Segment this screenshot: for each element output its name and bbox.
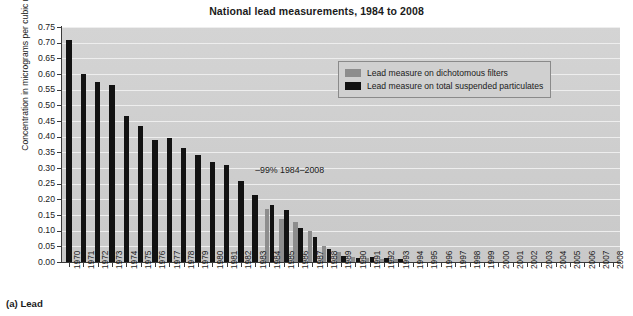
x-axis-tick-label: 1970 — [73, 251, 81, 269]
x-axis-tick-label: 2004 — [559, 251, 567, 269]
x-axis-tick — [312, 263, 313, 267]
x-axis-tick-label: 1990 — [359, 251, 367, 269]
bar-tsp-1977 — [167, 138, 172, 262]
x-axis-tick — [298, 263, 299, 267]
x-axis-tick — [498, 263, 499, 267]
bar-tsp-1978 — [181, 148, 186, 262]
x-axis-tick — [427, 263, 428, 267]
x-axis-tick — [355, 263, 356, 267]
x-axis-tick-label: 1981 — [230, 251, 238, 269]
x-axis-tick-label: 1995 — [430, 251, 438, 269]
x-axis-tick-label: 1991 — [373, 251, 381, 269]
x-axis-tick — [69, 263, 70, 267]
y-axis-tick-label: 0.60 — [3, 70, 55, 79]
x-axis-tick — [613, 263, 614, 267]
y-axis-tick-label: 0.50 — [3, 101, 55, 110]
x-axis-tick-label: 1979 — [201, 251, 209, 269]
x-axis-tick-label: 1977 — [173, 251, 181, 269]
y-axis-line — [61, 26, 62, 263]
gridline — [62, 168, 620, 169]
gridline — [62, 184, 620, 185]
x-axis-tick-label: 1989 — [344, 251, 352, 269]
legend-item[interactable]: Lead measure on dichotomous filters — [345, 66, 543, 79]
x-axis-tick-label: 1985 — [287, 251, 295, 269]
y-axis-tick-label: 0.70 — [3, 38, 55, 47]
legend-swatch-tsp-icon — [345, 82, 361, 90]
x-axis-tick — [169, 263, 170, 267]
legend-item-label: Lead measure on total suspended particul… — [367, 81, 543, 91]
gridline — [62, 231, 620, 232]
x-axis-tick — [269, 263, 270, 267]
y-axis-tick-label: 0.20 — [3, 195, 55, 204]
legend-item[interactable]: Lead measure on total suspended particul… — [345, 79, 543, 92]
x-axis-tick-label: 1999 — [487, 251, 495, 269]
bar-tsp-1975 — [138, 126, 143, 262]
x-axis-tick — [370, 263, 371, 267]
x-axis-tick — [284, 263, 285, 267]
x-axis-tick-label: 1993 — [402, 251, 410, 269]
x-axis-tick-label: 1982 — [244, 251, 252, 269]
x-axis-tick-label: 1996 — [445, 251, 453, 269]
y-axis-tick-label: 0.55 — [3, 85, 55, 94]
x-axis-tick-label: 2008 — [616, 251, 624, 269]
x-axis-tick-label: 1997 — [459, 251, 467, 269]
y-axis-tick-labels: 0.750.700.650.600.550.500.450.400.350.30… — [0, 0, 55, 316]
y-axis-tick-label: 0.25 — [3, 179, 55, 188]
x-axis-tick-label: 1974 — [130, 251, 138, 269]
bar-tsp-1971 — [81, 74, 86, 262]
x-axis-tick — [227, 263, 228, 267]
x-axis-tick — [141, 263, 142, 267]
bar-tsp-1973 — [109, 85, 114, 262]
x-axis-tick — [584, 263, 585, 267]
x-axis-tick — [83, 263, 84, 267]
x-axis-tick-label: 1972 — [101, 251, 109, 269]
x-axis-tick — [541, 263, 542, 267]
bar-tsp-1970 — [66, 40, 71, 262]
gridline — [62, 137, 620, 138]
x-axis-tick — [455, 263, 456, 267]
chart-figure: National lead measurements, 1984 to 2008… — [0, 0, 633, 316]
x-axis-tick — [98, 263, 99, 267]
y-axis-tick-label: 0.40 — [3, 132, 55, 141]
x-axis-tick — [198, 263, 199, 267]
x-axis-tick — [527, 263, 528, 267]
x-axis-tick-label: 1971 — [87, 251, 95, 269]
y-axis-tick-label: 0.30 — [3, 164, 55, 173]
x-axis-tick — [484, 263, 485, 267]
x-axis-tick — [341, 263, 342, 267]
x-axis-tick-label: 2000 — [502, 251, 510, 269]
gridline — [62, 58, 620, 59]
bar-tsp-1981 — [224, 165, 229, 262]
gridline — [62, 215, 620, 216]
x-axis-tick-label: 2006 — [588, 251, 596, 269]
x-axis-tick — [470, 263, 471, 267]
x-axis-tick — [241, 263, 242, 267]
bar-tsp-1972 — [95, 82, 100, 262]
y-axis-tick-label: 0.65 — [3, 54, 55, 63]
x-axis-tick — [255, 263, 256, 267]
y-axis-tick-label: 0.15 — [3, 211, 55, 220]
legend-item-label: Lead measure on dichotomous filters — [367, 68, 508, 78]
gridline — [62, 105, 620, 106]
x-axis-tick-label: 2002 — [530, 251, 538, 269]
gridline — [62, 152, 620, 153]
x-axis-tick — [556, 263, 557, 267]
x-axis-tick-label: 1992 — [387, 251, 395, 269]
x-axis-tick-label: 1984 — [273, 251, 281, 269]
y-axis-tick-label: 0.00 — [3, 258, 55, 267]
y-axis-tick-label: 0.35 — [3, 148, 55, 157]
x-axis-tick-label: 1983 — [259, 251, 267, 269]
bar-tsp-1976 — [152, 140, 157, 262]
x-axis-tick-label: 1978 — [187, 251, 195, 269]
x-axis-tick — [212, 263, 213, 267]
y-axis-tick-label: 0.10 — [3, 226, 55, 235]
y-axis-tick-label: 0.45 — [3, 117, 55, 126]
y-axis-tick-label: 0.75 — [3, 23, 55, 32]
chart-title: National lead measurements, 1984 to 2008 — [0, 5, 633, 17]
x-axis-tick — [112, 263, 113, 267]
x-axis-tick-label: 1980 — [216, 251, 224, 269]
legend-swatch-dichotomous-icon — [345, 69, 361, 77]
x-axis-tick — [155, 263, 156, 267]
x-axis-tick — [398, 263, 399, 267]
figure-caption: (a) Lead — [6, 298, 43, 309]
